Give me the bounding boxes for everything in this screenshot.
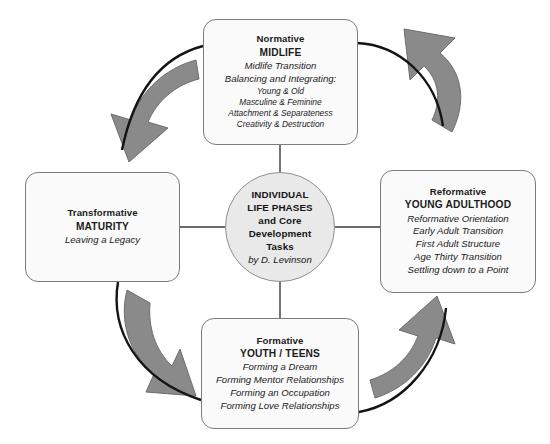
hub-line: INDIVIDUAL: [251, 188, 308, 201]
phase-task: Forming Mentor Relationships: [216, 374, 344, 387]
phase-name-maturity: MATURITY: [76, 220, 129, 233]
arrow-young-adulthood-to-midlife: [357, 29, 461, 132]
arrow-midlife-to-maturity: [111, 46, 203, 162]
phase-task: Forming Love Relationships: [221, 400, 340, 413]
phase-subtask: Creativity & Destruction: [237, 119, 325, 130]
phase-subtask: Young & Old: [257, 86, 304, 97]
phase-task: Reformative Orientation: [407, 213, 508, 226]
phase-box-young-adulthood[interactable]: Reformative YOUNG ADULTHOOD Reformative …: [380, 170, 536, 293]
phase-task: First Adult Structure: [416, 238, 500, 251]
hub-line: LIFE PHASES: [247, 201, 312, 214]
phase-task: Age Thirty Transition: [414, 251, 502, 264]
phase-box-youth[interactable]: Formative YOUTH / TEENS Forming a Dream …: [201, 318, 359, 429]
phase-name-youth: YOUTH / TEENS: [240, 347, 320, 360]
phase-task: Forming a Dream: [243, 361, 318, 374]
phase-task: Balancing and Integrating:: [225, 73, 336, 86]
phase-task: Forming an Occupation: [230, 387, 330, 400]
arrow-maturity-to-youth: [117, 282, 201, 400]
hub-line: Tasks: [266, 240, 294, 253]
phase-task: Leaving a Legacy: [65, 234, 140, 247]
phase-subtask: Attachment & Separateness: [228, 108, 332, 119]
phase-task: Early Adult Transition: [413, 225, 503, 238]
hub-author: by D. Levinson: [248, 254, 311, 267]
hub-line: Development: [249, 227, 312, 240]
arrow-youth-to-young-adulthood: [359, 296, 455, 412]
phase-name-young-adulthood: YOUNG ADULTHOOD: [405, 198, 511, 211]
diagram-canvas: Normative MIDLIFE Midlife Transition Bal…: [0, 0, 550, 444]
phase-box-maturity[interactable]: Transformative MATURITY Leaving a Legacy: [25, 172, 180, 282]
phase-task: Midlife Transition: [245, 60, 317, 73]
phase-subtask: Masculine & Feminine: [239, 97, 321, 108]
phase-task: Settling down to a Point: [408, 264, 509, 277]
phase-kicker-midlife: Normative: [257, 33, 305, 45]
phase-name-midlife: MIDLIFE: [260, 46, 302, 59]
phase-kicker-youth: Formative: [257, 335, 304, 347]
hub-line: and Core: [258, 214, 301, 227]
phase-kicker-maturity: Transformative: [67, 207, 137, 219]
phase-kicker-young-adulthood: Reformative: [430, 186, 487, 198]
center-hub[interactable]: INDIVIDUAL LIFE PHASES and Core Developm…: [225, 172, 335, 282]
phase-box-midlife[interactable]: Normative MIDLIFE Midlife Transition Bal…: [203, 19, 358, 145]
